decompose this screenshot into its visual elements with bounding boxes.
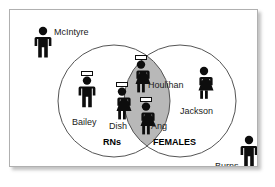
nurse-male-figure-icon xyxy=(76,71,98,109)
person-label-jackson: Jackson xyxy=(180,107,213,116)
set-label-females: FEMALES xyxy=(153,138,196,147)
person-figure-dish[interactable] xyxy=(110,82,134,120)
male-figure-icon xyxy=(32,26,54,58)
person-label-mcintyre: McIntyre xyxy=(54,28,89,37)
male-figure-icon xyxy=(238,135,258,167)
venn-diagram-frame: McIntyre Bailey Houlihan xyxy=(9,9,258,167)
nurse-female-figure-icon xyxy=(110,82,134,120)
person-figure-burns[interactable] xyxy=(238,135,258,167)
diagram-canvas: McIntyre Bailey Houlihan xyxy=(0,0,275,187)
person-label-bailey: Bailey xyxy=(72,118,97,127)
person-label-burns: Burns xyxy=(215,162,239,167)
set-label-rns: RNs xyxy=(103,138,121,147)
person-label-houlihan: Houlihan xyxy=(148,81,184,90)
person-label-dish: Dish xyxy=(109,122,127,131)
person-figure-bailey[interactable] xyxy=(76,71,98,109)
person-label-ang: Ang xyxy=(151,122,167,131)
person-figure-mcintyre[interactable] xyxy=(32,26,54,58)
female-figure-icon xyxy=(192,66,216,100)
person-figure-jackson[interactable] xyxy=(192,66,216,100)
